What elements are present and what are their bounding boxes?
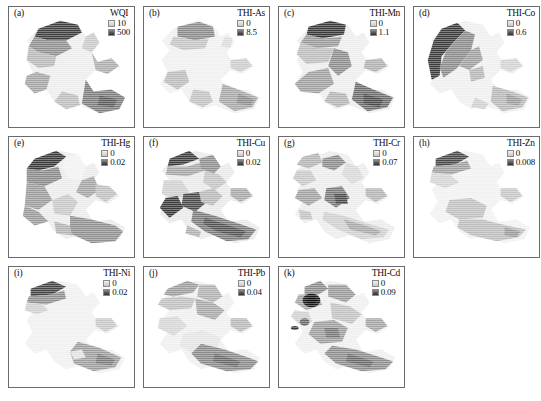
- map-panel-f[interactable]: (f) THI-Cu 0 0.02: [143, 136, 270, 258]
- legend-max-row-f: 0.02: [237, 158, 265, 167]
- legend-max-value-b: 8.5: [246, 28, 257, 37]
- panel-label-e: (e): [14, 139, 24, 149]
- legend-swatch-high-icon: [108, 29, 115, 36]
- legend-swatch-high-icon: [237, 29, 244, 36]
- legend-swatch-high-icon: [373, 159, 380, 166]
- legend-j: THI-Pb 0 0.04: [238, 269, 265, 297]
- legend-title-e: THI-Hg: [101, 139, 130, 149]
- legend-swatch-low-icon: [237, 150, 244, 157]
- legend-title-b: THI-As: [237, 9, 265, 19]
- panel-label-f: (f): [149, 139, 158, 149]
- legend-max-value-g: 0.07: [382, 158, 397, 167]
- legend-swatch-high-icon: [507, 29, 514, 36]
- legend-h: THI-Zn 0 0.008: [507, 139, 535, 167]
- panel-label-h: (h): [419, 139, 429, 149]
- panel-label-b: (b): [149, 9, 159, 19]
- panel-label-k: (k): [284, 269, 294, 279]
- map-panel-d[interactable]: (d) THI-Co 0 0.6: [413, 6, 540, 128]
- legend-f: THI-Cu 0 0.02: [237, 139, 265, 167]
- legend-title-f: THI-Cu: [237, 139, 265, 149]
- legend-max-value-a: 500: [117, 28, 130, 37]
- figure-multi-panel-maps: (a) WQI 10 500: [0, 0, 541, 401]
- legend-title-h: THI-Zn: [507, 139, 535, 149]
- legend-swatch-low-icon: [373, 150, 380, 157]
- legend-max-value-c: 1.1: [379, 28, 390, 37]
- panel-grid: (a) WQI 10 500: [0, 0, 541, 401]
- map-panel-h[interactable]: (h) THI-Zn 0 0.008: [413, 136, 540, 258]
- map-panel-k[interactable]: (k) THI-Cd 0 0.09: [278, 266, 405, 388]
- legend-swatch-low-icon: [238, 280, 245, 287]
- map-panel-b[interactable]: (b) THI-As 0 8.5: [143, 6, 270, 128]
- legend-swatch-high-icon: [101, 159, 108, 166]
- legend-g: THI-Cr 0 0.07: [373, 139, 400, 167]
- legend-max-row-k: 0.09: [372, 288, 400, 297]
- legend-max-row-c: 1.1: [370, 28, 400, 37]
- legend-title-k: THI-Cd: [372, 269, 400, 279]
- panel-label-g: (g): [284, 139, 294, 149]
- map-panel-g[interactable]: (g) THI-Cr 0 0.07: [278, 136, 405, 258]
- map-panel-i[interactable]: (i) THI-Ni 0 0.02: [8, 266, 135, 388]
- legend-max-row-e: 0.02: [101, 158, 130, 167]
- legend-max-value-h: 0.008: [516, 158, 535, 167]
- legend-c: THI-Mn 0 1.1: [370, 9, 400, 37]
- map-panel-j[interactable]: (j) THI-Pb 0 0.04: [143, 266, 270, 388]
- legend-swatch-low-icon: [103, 280, 110, 287]
- legend-swatch-low-icon: [108, 20, 115, 27]
- panel-label-j: (j): [149, 269, 157, 279]
- legend-e: THI-Hg 0 0.02: [101, 139, 130, 167]
- legend-swatch-low-icon: [507, 150, 514, 157]
- legend-max-row-a: 500: [108, 28, 130, 37]
- legend-swatch-high-icon: [237, 159, 244, 166]
- legend-swatch-low-icon: [372, 280, 379, 287]
- map-panel-a[interactable]: (a) WQI 10 500: [8, 6, 135, 128]
- legend-swatch-low-icon: [101, 150, 108, 157]
- legend-max-row-j: 0.04: [238, 288, 265, 297]
- map-panel-e[interactable]: (e) THI-Hg 0 0.02: [8, 136, 135, 258]
- legend-title-j: THI-Pb: [238, 269, 265, 279]
- legend-swatch-high-icon: [372, 289, 379, 296]
- legend-swatch-low-icon: [507, 20, 514, 27]
- panel-label-c: (c): [284, 9, 294, 19]
- legend-max-row-i: 0.02: [103, 288, 130, 297]
- legend-max-row-d: 0.6: [507, 28, 535, 37]
- legend-max-value-i: 0.02: [112, 288, 127, 297]
- panel-label-i: (i): [14, 269, 22, 279]
- legend-max-value-k: 0.09: [381, 288, 396, 297]
- legend-swatch-high-icon: [238, 289, 245, 296]
- legend-max-row-h: 0.008: [507, 158, 535, 167]
- legend-max-value-e: 0.02: [110, 158, 125, 167]
- legend-swatch-high-icon: [370, 29, 377, 36]
- legend-max-value-j: 0.04: [247, 288, 262, 297]
- legend-swatch-low-icon: [370, 20, 377, 27]
- legend-k: THI-Cd 0 0.09: [372, 269, 400, 297]
- legend-title-d: THI-Co: [507, 9, 535, 19]
- legend-title-c: THI-Mn: [370, 9, 400, 19]
- legend-swatch-high-icon: [103, 289, 110, 296]
- legend-a: WQI 10 500: [108, 9, 130, 37]
- empty-grid-slot: [413, 266, 540, 388]
- map-panel-c[interactable]: (c) THI-Mn 0 1.1: [278, 6, 405, 128]
- legend-i: THI-Ni 0 0.02: [103, 269, 130, 297]
- legend-swatch-low-icon: [237, 20, 244, 27]
- legend-swatch-high-icon: [507, 159, 514, 166]
- legend-max-value-d: 0.6: [516, 28, 527, 37]
- legend-max-row-g: 0.07: [373, 158, 400, 167]
- legend-max-value-f: 0.02: [246, 158, 261, 167]
- panel-label-a: (a): [14, 9, 24, 19]
- panel-label-d: (d): [419, 9, 429, 19]
- legend-max-row-b: 8.5: [237, 28, 265, 37]
- legend-d: THI-Co 0 0.6: [507, 9, 535, 37]
- legend-b: THI-As 0 8.5: [237, 9, 265, 37]
